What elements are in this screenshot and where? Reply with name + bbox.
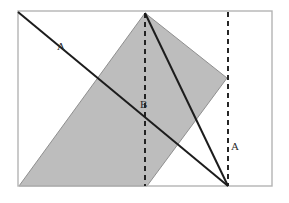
label-b-center: B xyxy=(140,98,147,110)
label-a-upper-left: A xyxy=(57,40,65,52)
geometry-figure: A B A xyxy=(0,0,289,203)
label-a-right: A xyxy=(231,140,239,152)
figure-canvas: A B A xyxy=(0,0,289,203)
